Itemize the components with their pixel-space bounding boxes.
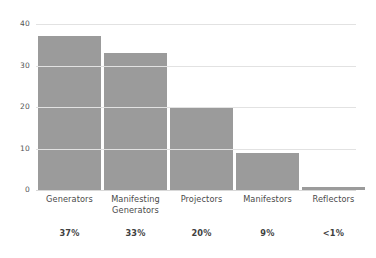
percentage-projectors: 20%	[167, 228, 236, 239]
x-label-manifestors-line1: Manifestors	[233, 194, 302, 205]
percentage-labels: 37% 33% 20% 9% <1%	[36, 228, 356, 244]
x-label-manifesting-generators-line1: Manifesting	[101, 194, 170, 205]
x-label-manifestors: Manifestors	[233, 194, 302, 205]
percentage-reflectors: <1%	[299, 228, 368, 239]
x-label-generators-line1: Generators	[35, 194, 104, 205]
bar-manifestors[interactable]	[236, 153, 299, 190]
gridline-30	[36, 66, 356, 67]
x-label-reflectors-line1: Reflectors	[299, 194, 368, 205]
bar-chart: 40 30 20 10 0 Generators	[0, 0, 376, 258]
x-label-generators: Generators	[35, 194, 104, 205]
y-axis-tick-0: 0	[4, 186, 30, 194]
y-axis-tick-30: 30	[4, 62, 30, 70]
gridline-20	[36, 107, 356, 108]
gridline-10	[36, 149, 356, 150]
percentage-manifesting-generators: 33%	[101, 228, 170, 239]
axis-baseline	[36, 190, 356, 191]
percentage-generators: 37%	[35, 228, 104, 239]
percentage-manifestors: 9%	[233, 228, 302, 239]
gridline-40	[36, 24, 356, 25]
x-label-projectors-line1: Projectors	[167, 194, 236, 205]
y-axis-tick-20: 20	[4, 103, 30, 111]
y-axis-tick-40: 40	[4, 20, 30, 28]
x-axis-labels: Generators Manifesting Generators Projec…	[36, 194, 356, 224]
bar-generators[interactable]	[38, 36, 101, 190]
x-label-reflectors: Reflectors	[299, 194, 368, 205]
x-label-manifesting-generators: Manifesting Generators	[101, 194, 170, 216]
x-label-projectors: Projectors	[167, 194, 236, 205]
bar-reflectors[interactable]	[302, 187, 365, 190]
y-axis-tick-10: 10	[4, 145, 30, 153]
bar-manifesting-generators[interactable]	[104, 53, 167, 190]
plot-area	[36, 24, 356, 190]
x-label-manifesting-generators-line2: Generators	[101, 205, 170, 216]
